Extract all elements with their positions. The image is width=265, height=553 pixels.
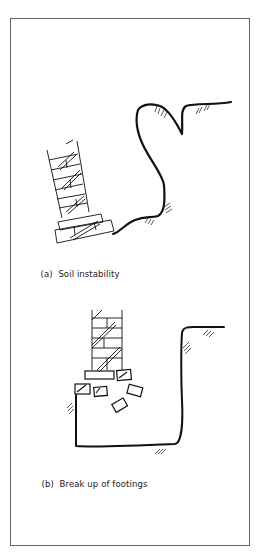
broken-footing-blocks [75, 369, 143, 412]
brick-wall [92, 310, 122, 372]
soil-hatch-marks [67, 330, 214, 454]
caption-b-label: (b) [42, 479, 54, 489]
caption-b-text: Break up of footings [60, 479, 148, 489]
caption-b: (b) Break up of footings [36, 469, 147, 489]
